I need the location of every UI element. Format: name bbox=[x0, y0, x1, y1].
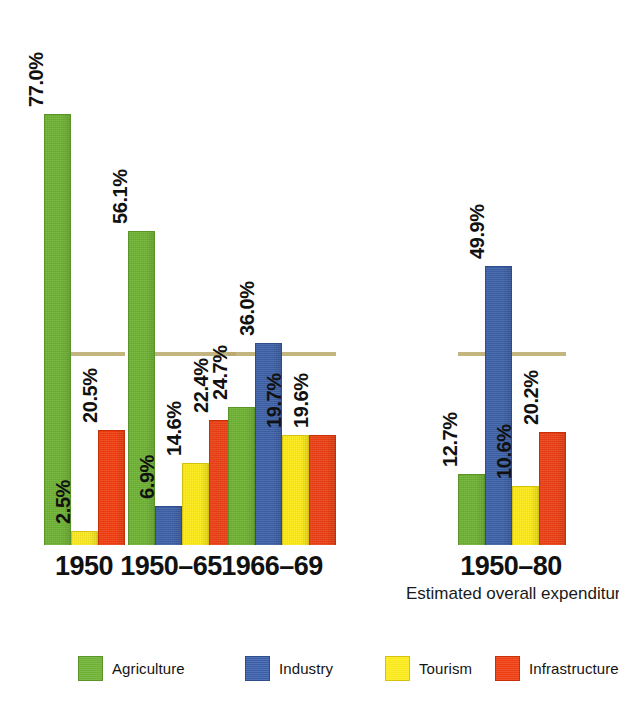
bar-industry-195080[interactable] bbox=[485, 266, 512, 545]
bar-value-label: 20.2% bbox=[520, 370, 540, 425]
bar-value-label: 14.6% bbox=[163, 402, 183, 457]
category-label-main: 1966–69 bbox=[221, 551, 323, 581]
bar-value-label: 24.7% bbox=[209, 345, 229, 400]
legend-item-industry[interactable]: Industry bbox=[245, 656, 333, 681]
category-label-main: 1950–80 bbox=[460, 551, 562, 581]
bar-value-label: 36.0% bbox=[236, 282, 256, 337]
legend-swatch-green bbox=[78, 656, 103, 681]
bar-tourism-1950[interactable] bbox=[71, 531, 98, 545]
legend-item-infrastructure[interactable]: Infrastructure bbox=[495, 656, 619, 681]
legend-item-tourism[interactable]: Tourism bbox=[385, 656, 472, 681]
bar-value-label: 49.9% bbox=[466, 204, 486, 259]
bar-value-label: 19.6% bbox=[290, 374, 310, 429]
bar-value-label: 10.6% bbox=[493, 424, 513, 479]
legend-label: Agriculture bbox=[112, 660, 185, 677]
category-label-sub: Estimated overall expenditure bbox=[406, 584, 616, 603]
bar-value-label: 12.7% bbox=[439, 412, 459, 467]
legend-item-agriculture[interactable]: Agriculture bbox=[78, 656, 185, 681]
bar-value-label: 22.4% bbox=[190, 358, 210, 413]
bar-infrastructure-196669[interactable] bbox=[309, 435, 336, 545]
bar-industry-195065[interactable] bbox=[155, 506, 182, 545]
bar-value-label: 19.7% bbox=[263, 373, 283, 428]
bar-tourism-196669[interactable] bbox=[282, 435, 309, 545]
legend-label: Infrastructure bbox=[529, 660, 619, 677]
category-label-4: 1950–80Estimated overall expenditure bbox=[406, 551, 616, 603]
legend-swatch-yellow bbox=[385, 656, 410, 681]
chart-legend: AgricultureIndustryTourismInfrastructure bbox=[0, 656, 619, 700]
group-baseline bbox=[228, 352, 336, 356]
bar-infrastructure-1950[interactable] bbox=[98, 430, 125, 545]
bar-chart: 77.0%2.5%20.5%56.1%6.9%14.6%22.4%24.7%36… bbox=[0, 0, 619, 728]
bar-agriculture-196669[interactable] bbox=[228, 407, 255, 545]
bar-agriculture-195080[interactable] bbox=[458, 474, 485, 545]
legend-swatch-red bbox=[495, 656, 520, 681]
legend-label: Industry bbox=[279, 660, 333, 677]
bar-value-label: 20.5% bbox=[79, 368, 99, 423]
bar-tourism-195080[interactable] bbox=[512, 486, 539, 545]
group-baseline bbox=[458, 352, 566, 356]
bar-value-label: 77.0% bbox=[25, 52, 45, 107]
legend-label: Tourism bbox=[419, 660, 472, 677]
plot-area: 77.0%2.5%20.5%56.1%6.9%14.6%22.4%24.7%36… bbox=[0, 0, 619, 545]
bar-value-label: 2.5% bbox=[52, 480, 72, 524]
category-label-3: 1966–69 bbox=[167, 551, 377, 582]
bar-value-label: 6.9% bbox=[136, 455, 156, 499]
legend-swatch-blue bbox=[245, 656, 270, 681]
bar-infrastructure-195080[interactable] bbox=[539, 432, 566, 545]
bar-value-label: 56.1% bbox=[109, 169, 129, 224]
bar-tourism-195065[interactable] bbox=[182, 463, 209, 545]
